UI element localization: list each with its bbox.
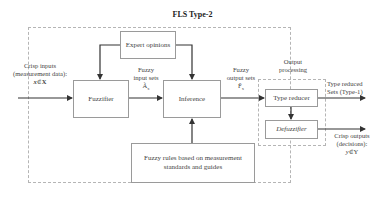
fuzzifier-label: Fuzzifier [88, 95, 113, 104]
fuzzy-output-sets-label: Fuzzy output sets F̃x [220, 66, 262, 92]
fuzzy-input-symbol: Ãx [126, 82, 166, 92]
output-processing-label: Output processing [268, 58, 318, 74]
inference-label: Inference [179, 95, 205, 104]
defuzzifier-block: Defuzzifier [265, 120, 318, 139]
defuzzifier-label: Defuzzifier [276, 125, 307, 134]
inference-block: Inference [163, 80, 221, 118]
fuzzy-rules-label-line1: Fuzzy rules based on measurement [144, 154, 242, 163]
crisp-outputs-expression: y∈Y [323, 148, 381, 156]
fuzzifier-block: Fuzzifier [73, 80, 129, 118]
type-reducer-label: Type reducer [273, 94, 310, 103]
fuzzy-rules-label-line2: standards and guides [164, 163, 222, 172]
crisp-outputs-label: Crisp outputs (decisions): y∈Y [323, 132, 381, 157]
fuzzy-input-sets-label: Fuzzy input sets Ãx [126, 66, 166, 92]
crisp-inputs-label: Crisp inputs (measurement data): x∈X [2, 62, 78, 87]
fuzzy-output-symbol: F̃x [220, 82, 262, 92]
fuzzy-rules-block: Fuzzy rules based on measurement standar… [131, 143, 255, 183]
type-reduced-sets-label: Type reduced Sets (Type-1) [327, 80, 385, 96]
type-reducer-block: Type reducer [265, 89, 318, 107]
expert-opinions-label: Expert opinions [126, 41, 171, 50]
expert-opinions-block: Expert opinions [120, 31, 176, 59]
crisp-inputs-expression: x∈X [2, 78, 78, 86]
